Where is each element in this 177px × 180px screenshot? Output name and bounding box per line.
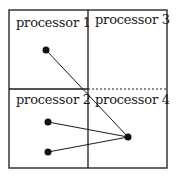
- label-processor-1: processor 1: [16, 15, 91, 30]
- node-p2-a: [45, 119, 52, 126]
- node-p2-b: [45, 149, 52, 156]
- label-processor-4: processor 4: [95, 92, 170, 107]
- node-p4: [125, 134, 132, 141]
- label-processor-2: processor 2: [16, 92, 91, 107]
- node-p1: [43, 47, 50, 54]
- label-processor-3: processor 3: [95, 12, 170, 27]
